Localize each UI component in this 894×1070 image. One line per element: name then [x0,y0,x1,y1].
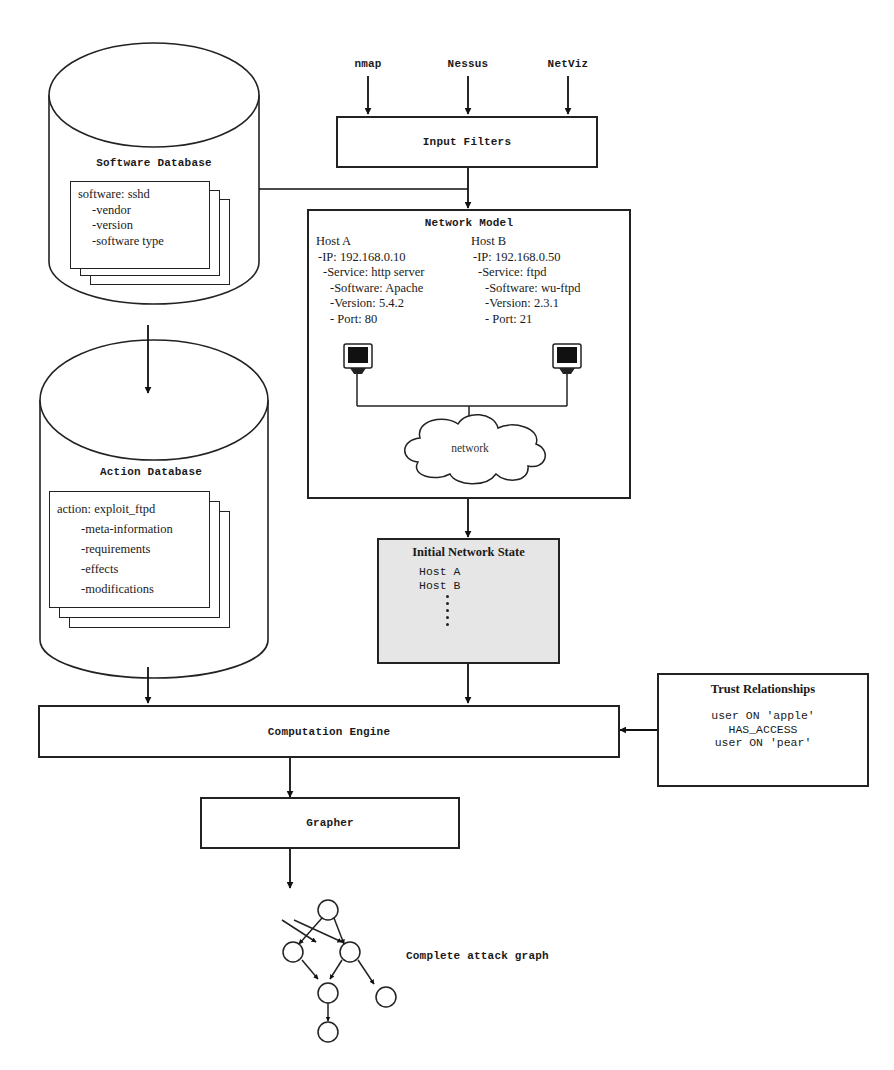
action-field-modifications: -modifications [57,579,209,599]
host-a-software: -Software: Apache [316,281,424,297]
initial-state-hosts: Host A Host B [419,565,460,593]
trust-rule-line-1: user ON 'apple' [659,709,867,723]
trust-rule-line-2: HAS_ACCESS [659,723,867,737]
host-a-port: - Port: 80 [316,312,424,328]
action-field-requirements: -requirements [57,539,209,559]
input-filters-label: Input Filters [423,136,511,148]
host-b-ip: -IP: 192.168.0.50 [471,250,580,266]
host-a-version: -Version: 5.4.2 [316,296,424,312]
trust-relationships-box: Trust Relationships user ON 'apple' HAS_… [657,673,869,787]
software-field-vendor: -vendor [78,203,209,219]
action-record-title: action: exploit_ftpd [57,499,209,519]
software-field-type: -software type [78,234,209,250]
host-a-name: Host A [316,234,424,250]
host-b-name: Host B [471,234,580,250]
grapher-box: Grapher [200,797,460,849]
host-b-port: - Port: 21 [471,312,580,328]
input-source-nessus: Nessus [440,58,496,70]
network-cloud-label: network [430,442,510,454]
action-database-title: Action Database [66,466,236,478]
software-record-title: software: sshd [78,187,209,203]
host-b-service: -Service: ftpd [471,265,580,281]
initial-network-state-box: Initial Network State Host A Host B [377,538,560,664]
computation-engine-label: Computation Engine [268,726,390,738]
ellipsis-dots [446,595,449,626]
host-b-version: -Version: 2.3.1 [471,296,580,312]
host-b-details: Host B -IP: 192.168.0.50 -Service: ftpd … [471,234,580,327]
trust-relationships-rules: user ON 'apple' HAS_ACCESS user ON 'pear… [659,709,867,750]
host-a-service: -Service: http server [316,265,424,281]
action-field-effects: -effects [57,559,209,579]
software-database-title: Software Database [62,157,246,169]
software-record-card: software: sshd -vendor -version -softwar… [70,181,210,269]
input-source-nmap: nmap [346,58,390,70]
trust-rule-line-3: user ON 'pear' [659,736,867,750]
grapher-label: Grapher [306,817,354,829]
initial-state-host-b: Host B [419,579,460,593]
attack-graph-label: Complete attack graph [406,950,549,962]
host-a-ip: -IP: 192.168.0.10 [316,250,424,266]
host-b-software: -Software: wu-ftpd [471,281,580,297]
initial-state-host-a: Host A [419,565,460,579]
action-field-meta-information: -meta-information [57,519,209,539]
input-filters-box: Input Filters [336,116,598,168]
trust-relationships-title: Trust Relationships [659,682,867,697]
software-field-version: -version [78,218,209,234]
action-record-card: action: exploit_ftpd -meta-information -… [49,491,210,608]
network-model-box: Network Model Host A -IP: 192.168.0.10 -… [307,209,631,499]
input-source-netviz: NetViz [540,58,596,70]
computation-engine-box: Computation Engine [38,705,620,758]
network-model-title: Network Model [309,217,629,229]
host-a-details: Host A -IP: 192.168.0.10 -Service: http … [316,234,424,327]
initial-network-state-title: Initial Network State [379,545,558,560]
attack-graph-icon [282,900,396,1042]
